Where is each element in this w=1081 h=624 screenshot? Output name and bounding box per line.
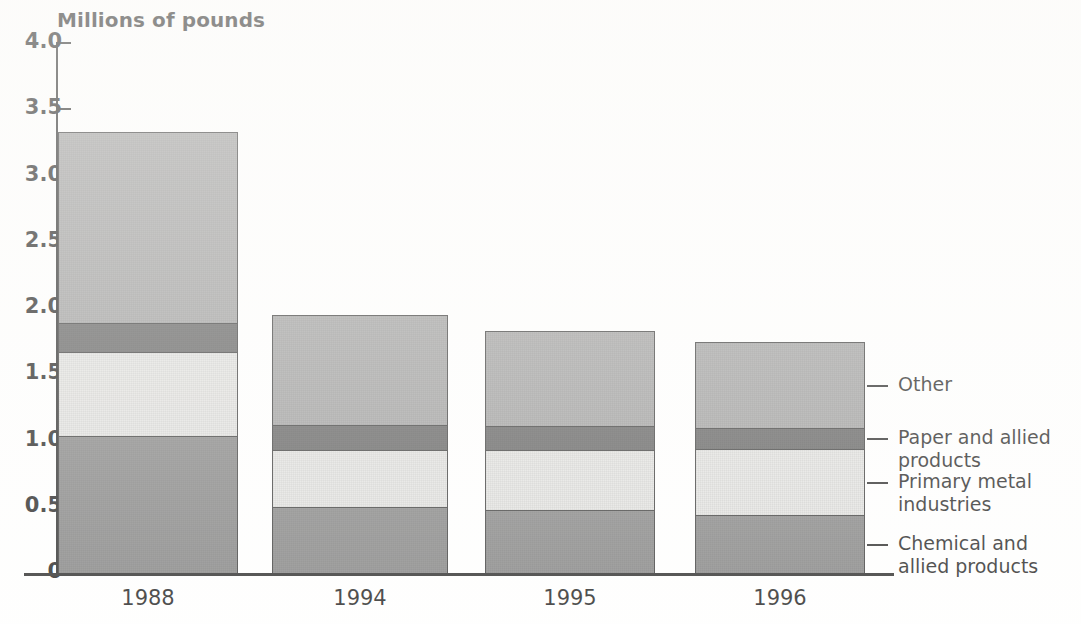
y-axis-tick-label: 3.5 — [10, 95, 62, 119]
bar-segment — [272, 425, 448, 452]
bar-segment — [485, 331, 655, 428]
x-axis-label-1994: 1994 — [272, 586, 448, 610]
y-axis-tick-label: 1.5 — [10, 360, 62, 384]
bar-segment — [272, 507, 448, 575]
bar-segment — [58, 352, 238, 437]
y-axis-tick-label: 2.0 — [10, 294, 62, 318]
y-axis-tick-label: 3.0 — [10, 162, 62, 186]
x-axis-label-1995: 1995 — [485, 586, 655, 610]
bar-1988 — [58, 0, 238, 573]
legend-leader-line — [867, 385, 888, 387]
bar-1994 — [272, 0, 448, 573]
bar-1996 — [695, 0, 865, 573]
bar-segment — [58, 435, 238, 574]
y-axis-tick-label: 1.0 — [10, 427, 62, 451]
bar-segment — [485, 426, 655, 451]
bar-segment — [58, 323, 238, 354]
y-axis-tick-label: 4.0 — [10, 29, 62, 53]
y-axis-tick-label: 0 — [10, 559, 62, 583]
legend-label: Other — [898, 373, 952, 396]
bar-segment — [485, 509, 655, 574]
bar-segment — [58, 132, 238, 324]
legend-leader-line — [867, 438, 888, 440]
bar-segment — [272, 315, 448, 426]
bar-segment — [695, 448, 865, 516]
y-axis-tick-label: 2.5 — [10, 228, 62, 252]
stacked-bar-chart: Millions of pounds 4.03.53.02.52.01.51.0… — [0, 0, 1081, 624]
bar-segment — [695, 427, 865, 450]
legend-label: Chemical and allied products — [898, 532, 1038, 578]
legend-label: Paper and allied products — [898, 426, 1051, 472]
legend-leader-line — [867, 482, 888, 484]
legend-leader-line — [867, 544, 888, 546]
bar-1995 — [485, 0, 655, 573]
x-axis-label-1996: 1996 — [695, 586, 865, 610]
legend-label: Primary metal industries — [898, 470, 1032, 516]
x-axis-line — [24, 573, 894, 576]
bar-segment — [485, 450, 655, 511]
y-axis-tick-label: 0.5 — [10, 493, 62, 517]
bar-segment — [272, 450, 448, 508]
bar-segment — [695, 342, 865, 428]
bar-segment — [695, 515, 865, 575]
x-axis-label-1988: 1988 — [58, 586, 238, 610]
